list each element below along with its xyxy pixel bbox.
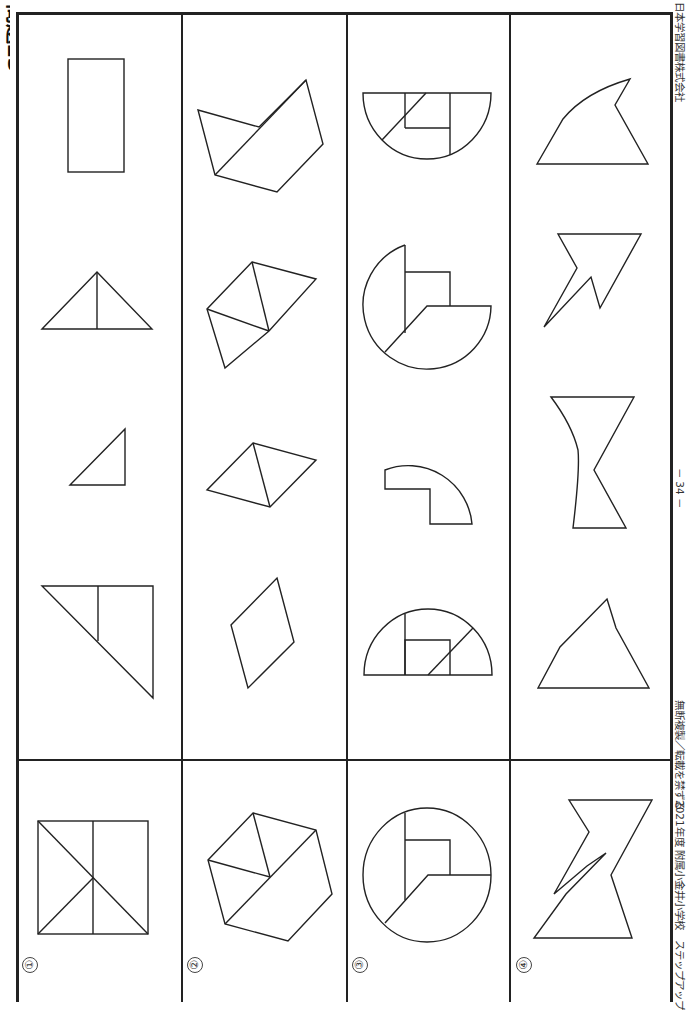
footer: 日本学習図書株式会社 － 34 － 無断複製／転載を禁ずる 2021年度 附属小… [676, 0, 689, 982]
choice-2d-rhombus[interactable] [231, 578, 294, 688]
choice-4a-fin[interactable] [537, 79, 648, 164]
choice-4b-arrow[interactable] [544, 234, 641, 327]
row-number-3: ③ [352, 957, 368, 973]
publisher: 日本学習図書株式会社 [673, 2, 688, 102]
choice-3d-semicircle[interactable] [364, 609, 492, 675]
choice-2a-pentagon[interactable] [198, 80, 323, 192]
page-number: － 34 － [673, 468, 688, 508]
row-2-choices [198, 80, 323, 688]
choice-3c-ring-piece[interactable] [385, 466, 472, 524]
reference-2[interactable] [208, 813, 332, 941]
reference-1[interactable] [38, 821, 148, 934]
choice-1d-trapezoid[interactable] [42, 586, 153, 698]
row-number-1: ① [22, 957, 38, 973]
choice-1b-triangle[interactable] [42, 272, 152, 329]
choice-1a-rectangle[interactable] [68, 59, 124, 172]
choice-2b-quad[interactable] [207, 262, 316, 368]
row-number-4: ④ [516, 957, 532, 973]
choice-2c-rhombus-diagonal[interactable] [207, 443, 316, 507]
series-label: 2021年度 附属小金井小学校 ステップアップ [673, 800, 688, 1010]
row-1-choices [42, 59, 153, 698]
choice-4c-hourglass[interactable] [551, 397, 634, 528]
row-4-choices [537, 79, 649, 688]
choice-3b-circle-piece[interactable] [363, 245, 491, 369]
row-number-2: ② [187, 957, 203, 973]
choice-1c-right-triangle[interactable] [70, 429, 125, 485]
row-3-choices [363, 93, 492, 675]
choice-3a-semicircle[interactable] [363, 93, 491, 159]
reference-4[interactable] [534, 800, 652, 938]
copyright-notice: 無断複製／転載を禁ずる [673, 700, 688, 810]
choice-4d-quadrilateral[interactable] [538, 599, 649, 688]
reference-3[interactable] [363, 808, 491, 942]
reference-shapes [38, 800, 652, 942]
